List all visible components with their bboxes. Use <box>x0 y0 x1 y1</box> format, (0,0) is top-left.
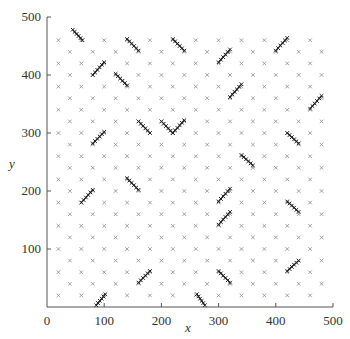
lattice-point-marker <box>114 236 118 240</box>
lattice-point-marker <box>194 201 198 205</box>
lattice-point-marker <box>80 294 84 298</box>
segment-marker <box>297 259 301 263</box>
y-tick-label: 300 <box>22 125 42 140</box>
lattice-point-marker <box>263 154 267 158</box>
lattice-point-marker <box>68 282 72 286</box>
dense-segment <box>274 36 289 52</box>
lattice-point-marker <box>205 73 209 77</box>
segment-marker <box>104 292 108 296</box>
lattice-point-marker <box>102 247 106 251</box>
lattice-point-marker <box>57 224 61 228</box>
lattice-point-marker <box>80 247 84 251</box>
lattice-point-marker <box>251 50 255 54</box>
lattice-point-marker <box>205 120 209 124</box>
dense-segment <box>217 187 232 203</box>
lattice-point-marker <box>125 224 129 228</box>
lattice-point-marker <box>320 143 324 147</box>
lattice-point-marker <box>274 259 278 263</box>
lattice-point-marker <box>274 120 278 124</box>
lattice-point-marker <box>80 154 84 158</box>
lattice-point-marker <box>148 85 152 89</box>
x-tick-label: 100 <box>94 313 114 328</box>
lattice-point-marker <box>80 85 84 89</box>
lattice-point-marker <box>148 224 152 228</box>
lattice-point-marker <box>205 189 209 193</box>
dense-segment <box>171 37 186 52</box>
dense-segments <box>71 28 323 307</box>
lattice-point-marker <box>171 201 175 205</box>
lattice-point-marker <box>274 96 278 100</box>
lattice-point-marker <box>137 96 141 100</box>
lattice-point-marker <box>114 50 118 54</box>
lattice-point-marker <box>251 73 255 77</box>
lattice-point-marker <box>80 108 84 112</box>
lattice-point-marker <box>57 247 61 251</box>
lattice-point-marker <box>137 212 141 216</box>
dense-segment <box>308 94 323 110</box>
lattice-point-marker <box>194 62 198 66</box>
lattice-point-marker <box>171 178 175 182</box>
dense-segment <box>125 37 140 52</box>
lattice-point-marker <box>102 201 106 205</box>
lattice-point-marker <box>102 154 106 158</box>
lattice-point-marker <box>160 282 164 286</box>
lattice-point-marker <box>171 224 175 228</box>
dense-segment <box>94 292 107 307</box>
x-tick-label: 0 <box>44 313 51 328</box>
lattice-point-marker <box>125 247 129 251</box>
x-tick-label: 500 <box>323 313 343 328</box>
dense-segment <box>125 176 140 191</box>
lattice-point-marker <box>240 178 244 182</box>
y-tick-label: 500 <box>22 9 42 24</box>
lattice-point-marker <box>91 282 95 286</box>
lattice-point-marker <box>160 166 164 170</box>
lattice-point-marker <box>114 282 118 286</box>
lattice-point-marker <box>171 294 175 298</box>
lattice-point-marker <box>182 236 186 240</box>
lattice-point-marker <box>297 282 301 286</box>
lattice-point-marker <box>160 96 164 100</box>
lattice-point-marker <box>160 189 164 193</box>
lattice-point-marker <box>171 62 175 66</box>
lattice-point-marker <box>125 131 129 135</box>
lattice-point-marker <box>148 201 152 205</box>
lattice-point-marker <box>57 154 61 158</box>
lattice-point-marker <box>102 85 106 89</box>
lattice-point-marker <box>68 189 72 193</box>
lattice-point-marker <box>320 259 324 263</box>
y-tick-label: 400 <box>22 67 42 82</box>
lattice-point-marker <box>263 247 267 251</box>
lattice-point-marker <box>297 50 301 54</box>
lattice-point-marker <box>171 85 175 89</box>
lattice-point-marker <box>91 166 95 170</box>
lattice-point-marker <box>194 131 198 135</box>
segment-marker <box>320 94 324 98</box>
lattice-point-marker <box>57 294 61 298</box>
dense-segment <box>91 130 106 145</box>
lattice-point-marker <box>240 294 244 298</box>
lattice-point-marker <box>68 212 72 216</box>
lattice-point-marker <box>91 50 95 54</box>
lattice-point-marker <box>274 189 278 193</box>
lattice-point-marker <box>308 154 312 158</box>
lattice-point-marker <box>114 212 118 216</box>
lattice-point-marker <box>68 259 72 263</box>
lattice-point-marker <box>102 224 106 228</box>
lattice-point-marker <box>263 224 267 228</box>
lattice-point-marker <box>57 62 61 66</box>
lattice-point-marker <box>308 247 312 251</box>
lattice-point-marker <box>308 270 312 274</box>
lattice-point-marker <box>308 131 312 135</box>
lattice-point-marker <box>308 178 312 182</box>
lattice-point-marker <box>57 201 61 205</box>
lattice-point-marker <box>182 143 186 147</box>
lattice-point-marker <box>240 247 244 251</box>
lattice-point-marker <box>240 131 244 135</box>
lattice-point-marker <box>320 236 324 240</box>
lattice-point-marker <box>125 154 129 158</box>
lattice-point-marker <box>57 270 61 274</box>
lattice-point-marker <box>114 96 118 100</box>
lattice-point-marker <box>160 236 164 240</box>
lattice-point-marker <box>57 108 61 112</box>
lattice-point-marker <box>194 108 198 112</box>
